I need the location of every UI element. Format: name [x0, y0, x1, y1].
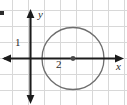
left-edge-marker: [0, 11, 4, 15]
y-axis-arrow-down-icon: [27, 95, 35, 104]
axis-arrowheads: [2, 9, 124, 104]
x-axis-label: x: [116, 61, 121, 72]
grid-lines: [0, 0, 127, 105]
circle-center-point: [71, 56, 76, 61]
coordinate-plot: [0, 0, 127, 105]
x-unit-tick-label: 2: [56, 59, 62, 70]
math-figure: y x 1 2: [0, 0, 127, 105]
y-unit-tick-label: 1: [15, 37, 21, 48]
x-axis-arrow-left-icon: [2, 55, 11, 63]
y-axis-label: y: [38, 9, 43, 20]
